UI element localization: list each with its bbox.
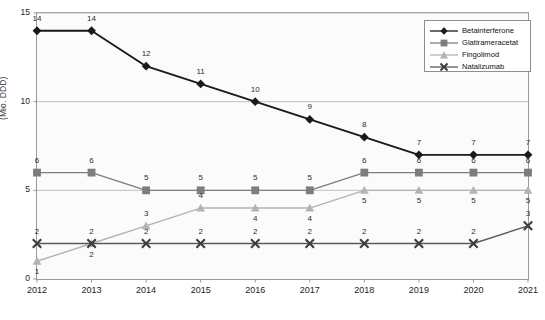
data-point-label: 2 (80, 227, 104, 236)
data-point-label: 2 (134, 227, 158, 236)
y-axis-tick-label: 10 (8, 96, 30, 106)
data-point-label: 8 (352, 120, 376, 129)
data-point-label: 11 (189, 67, 213, 76)
legend-key-diamond-icon (429, 26, 459, 36)
data-point-label: 3 (516, 209, 540, 218)
data-point-label: 6 (80, 156, 104, 165)
x-axis-tick-label: 2017 (287, 285, 333, 295)
data-point-label: 3 (134, 209, 158, 218)
data-point-label: 5 (516, 196, 540, 205)
x-axis-tick-label: 2016 (232, 285, 278, 295)
data-point-label: 5 (407, 196, 431, 205)
x-axis-tick-label: 2018 (341, 285, 387, 295)
x-axis-tick-label: 2014 (123, 285, 169, 295)
data-point-label: 5 (298, 173, 322, 182)
legend-label-fingolimod: Fingolimod (462, 50, 499, 59)
data-point-label: 2 (352, 227, 376, 236)
data-point-label: 5 (134, 173, 158, 182)
legend-key-triangle-icon (429, 50, 459, 60)
series-marker-glatirameracetat (360, 169, 368, 177)
legend-label-glatirameracetat: Glatirameracetat (462, 38, 518, 47)
data-point-label: 2 (189, 227, 213, 236)
data-point-label: 4 (189, 191, 213, 200)
data-point-label: 2 (461, 227, 485, 236)
y-axis-tick-label: 5 (8, 184, 30, 194)
legend: Betainterferone Glatirameracetat Fingoli… (424, 20, 531, 72)
legend-item-fingolimod[interactable]: Fingolimod (429, 49, 526, 60)
series-line-fingolimod (37, 190, 528, 261)
data-point-label: 12 (134, 49, 158, 58)
data-point-label: 4 (298, 214, 322, 223)
data-point-label: 10 (243, 85, 267, 94)
series-marker-betainterferone (33, 26, 42, 35)
data-point-label: 5 (243, 173, 267, 182)
data-point-label: 9 (298, 102, 322, 111)
data-point-label: 1 (25, 267, 49, 276)
x-axis-tick-label: 2015 (178, 285, 224, 295)
x-axis-tick-label: 2021 (505, 285, 545, 295)
data-point-label: 5 (189, 173, 213, 182)
data-point-label: 14 (80, 14, 104, 23)
data-point-label: 2 (243, 227, 267, 236)
series-marker-glatirameracetat (415, 169, 423, 177)
data-point-label: 7 (407, 138, 431, 147)
legend-key-square-icon (429, 38, 459, 48)
legend-label-natalizumab: Natalizumab (462, 62, 504, 71)
data-point-label: 2 (80, 250, 104, 259)
data-point-label: 14 (25, 14, 49, 23)
series-marker-natalizumab (524, 222, 532, 230)
legend-key-cross-icon (429, 62, 459, 72)
series-marker-glatirameracetat (251, 186, 259, 194)
data-point-label: 4 (243, 214, 267, 223)
series-marker-glatirameracetat (524, 169, 532, 177)
data-point-label: 6 (352, 156, 376, 165)
x-axis-tick-label: 2013 (69, 285, 115, 295)
x-axis-tick-label: 2012 (14, 285, 60, 295)
data-point-label: 7 (516, 138, 540, 147)
data-point-label: 6 (25, 156, 49, 165)
series-marker-glatirameracetat (33, 169, 41, 177)
series-marker-betainterferone (360, 133, 369, 142)
legend-label-betainterferone: Betainterferone (462, 26, 514, 35)
data-point-label: 6 (516, 156, 540, 165)
series-marker-glatirameracetat (470, 169, 478, 177)
series-marker-betainterferone (196, 80, 205, 89)
legend-item-betainterferone[interactable]: Betainterferone (429, 25, 526, 36)
series-line-glatirameracetat (37, 173, 528, 191)
data-point-label: 2 (25, 227, 49, 236)
legend-item-glatirameracetat[interactable]: Glatirameracetat (429, 37, 526, 48)
x-axis-tick-label: 2019 (396, 285, 442, 295)
data-point-label: 6 (407, 156, 431, 165)
series-marker-betainterferone (251, 97, 260, 106)
series-marker-glatirameracetat (306, 186, 314, 194)
series-line-natalizumab (37, 226, 528, 244)
series-marker-betainterferone (305, 115, 314, 124)
data-point-label: 2 (298, 227, 322, 236)
data-point-label: 5 (461, 196, 485, 205)
series-marker-glatirameracetat (142, 186, 150, 194)
data-point-label: 5 (352, 196, 376, 205)
chart-container: (Mio. DDD) 051015 2012201320142015201620… (0, 0, 545, 320)
data-point-label: 6 (461, 156, 485, 165)
series-marker-glatirameracetat (88, 169, 96, 177)
x-axis-tick-label: 2020 (450, 285, 496, 295)
legend-item-natalizumab[interactable]: Natalizumab (429, 61, 526, 72)
data-point-label: 2 (407, 227, 431, 236)
data-point-label: 7 (461, 138, 485, 147)
